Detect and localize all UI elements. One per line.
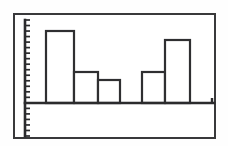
bar xyxy=(142,72,165,103)
bar xyxy=(165,40,190,103)
y-axis xyxy=(25,20,30,136)
bar xyxy=(74,72,98,103)
bar-series xyxy=(46,31,190,103)
figure-root xyxy=(0,0,228,146)
bar-chart-svg xyxy=(15,15,218,141)
chart-frame xyxy=(13,13,216,139)
bar xyxy=(46,31,74,103)
plot-area xyxy=(15,15,218,141)
bar xyxy=(98,80,120,103)
